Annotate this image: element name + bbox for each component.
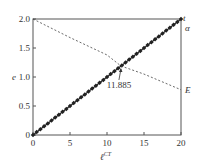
y-tick-label: 1.0	[19, 72, 31, 82]
y-tick-label: 0.5	[19, 101, 31, 111]
x-tick-label: 10	[103, 138, 113, 148]
chart: 0510152000.51.01.52.011.885tαE e ℓCT	[0, 0, 202, 166]
y-tick-label: 2.0	[19, 14, 31, 24]
series-label-alpha: α	[185, 23, 190, 33]
x-tick-label: 15	[140, 138, 150, 148]
y-tick-label: 1.5	[19, 43, 31, 53]
y-tick-label: 0	[26, 130, 31, 140]
annotation-label: 11.885	[107, 80, 132, 90]
x-tick-label: 5	[68, 138, 73, 148]
x-axis-label: ℓCT	[100, 151, 112, 162]
series-label-t: t	[183, 13, 186, 23]
x-tick-label: 0	[31, 138, 36, 148]
y-axis-label: e	[12, 72, 16, 82]
plot-area: 0510152000.51.01.52.011.885tαE	[19, 13, 191, 148]
series-label-E: E	[184, 85, 191, 95]
x-tick-label: 20	[177, 138, 187, 148]
